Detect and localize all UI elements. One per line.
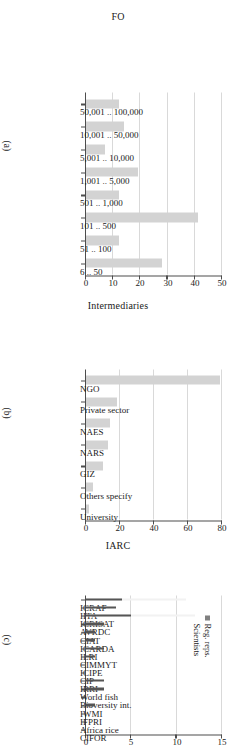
x-axis-tick [81,423,85,424]
panel-b-plot: 020406080NGOPrivate sectorNAESNARSGIZOth… [86,369,222,519]
x-axis-tick [81,487,85,488]
y-axis-line [86,275,222,276]
bar [86,418,110,427]
x-axis-tick [81,680,85,681]
x-axis-tick [81,263,85,264]
gridline [194,92,195,274]
x-axis-tick [81,672,85,673]
gridline [139,92,140,274]
x-axis-tick [81,648,85,649]
bar [86,144,105,154]
panel-c-tag: (c) [2,634,12,645]
x-axis-tick [81,640,85,641]
x-axis-tick [81,656,85,657]
bar [86,687,104,689]
bar [86,647,104,649]
bar [86,99,119,109]
y-axis-tick-label: 30 [163,277,172,287]
panel-a-plot: 0102030405050,001 .. 100,00010,001 .. 50… [86,92,222,274]
panel-b-ylabel: Intermediaries [88,299,149,310]
bar [86,622,104,624]
x-axis-tick [81,194,85,195]
gridline [153,369,154,519]
bar [86,258,162,268]
x-axis-tick [81,632,85,633]
x-axis-tick [81,240,85,241]
bar [86,598,122,600]
legend-label-reg-reps: Reg. reps. [204,623,213,657]
gridline [187,369,188,519]
bar [86,190,119,200]
gridline [221,595,222,733]
x-axis-tick [81,172,85,173]
bar [86,397,117,406]
bar [86,630,95,632]
legend-swatch-icon [195,615,200,620]
panel-c-ylabel: IARC [106,539,131,550]
y-axis-tick-label: 10 [109,277,118,287]
gridline [167,92,168,274]
bar [86,212,198,222]
y-axis-tick-label: 5 [129,736,134,746]
bar [86,235,119,245]
panel-c-legend: Reg. reps. Scientists [191,615,212,657]
x-axis-tick [81,599,85,600]
panel-b: Intermediaries (b) 020406080NGOPrivate s… [0,289,238,529]
x-axis-tick [81,705,85,706]
legend-label-scientists: Scientists [193,623,202,656]
y-axis-tick-label: 20 [136,277,145,287]
gridline [221,369,222,519]
x-axis-tick [81,623,85,624]
y-axis-tick-label: 0 [84,277,89,287]
bar [86,121,124,131]
x-axis-tick [81,149,85,150]
panel-a: FO (a) 0102030405050,001 .. 100,00010,00… [0,0,238,289]
bar [86,375,220,384]
legend-entry-reg-reps: Reg. reps. [204,615,213,657]
bar [86,655,95,657]
x-axis-tick [81,465,85,466]
x-axis-tick [81,696,85,697]
y-axis-tick-label: 15 [218,736,227,746]
x-axis-tick [81,508,85,509]
bar [86,461,103,470]
bar [86,614,131,616]
bar [86,440,108,449]
bar [86,606,116,608]
x-axis-tick [81,664,85,665]
x-axis-tick [81,380,85,381]
bar [86,703,95,705]
gridline [221,92,222,274]
x-axis-tick [81,401,85,402]
y-axis-tick-label: 10 [172,736,181,746]
bar [86,167,138,177]
panel-c: IARC (c) 051015ICRAFIITAICRISATAVRDCCIAT… [0,529,238,739]
panel-b-tag: (b) [2,407,12,418]
y-axis-tick-label: 40 [190,277,199,287]
bar [86,679,104,681]
legend-swatch-icon [205,615,210,620]
y-axis-tick-label: 50 [218,277,227,287]
legend-entry-scientists: Scientists [193,615,202,657]
x-axis-tick [81,126,85,127]
panel-a-tag: (a) [2,140,12,151]
x-axis-tick [81,615,85,616]
x-axis-tick [81,729,85,730]
bar [86,482,93,491]
x-axis-tick [81,713,85,714]
x-axis-tick [81,607,85,608]
x-axis-tick [81,444,85,445]
x-axis-tick [81,103,85,104]
x-axis-tick [81,721,85,722]
x-axis-tick [81,688,85,689]
x-axis-tick [81,217,85,218]
bar [86,504,89,513]
panel-a-ylabel: FO [111,10,124,21]
bar [86,638,95,640]
